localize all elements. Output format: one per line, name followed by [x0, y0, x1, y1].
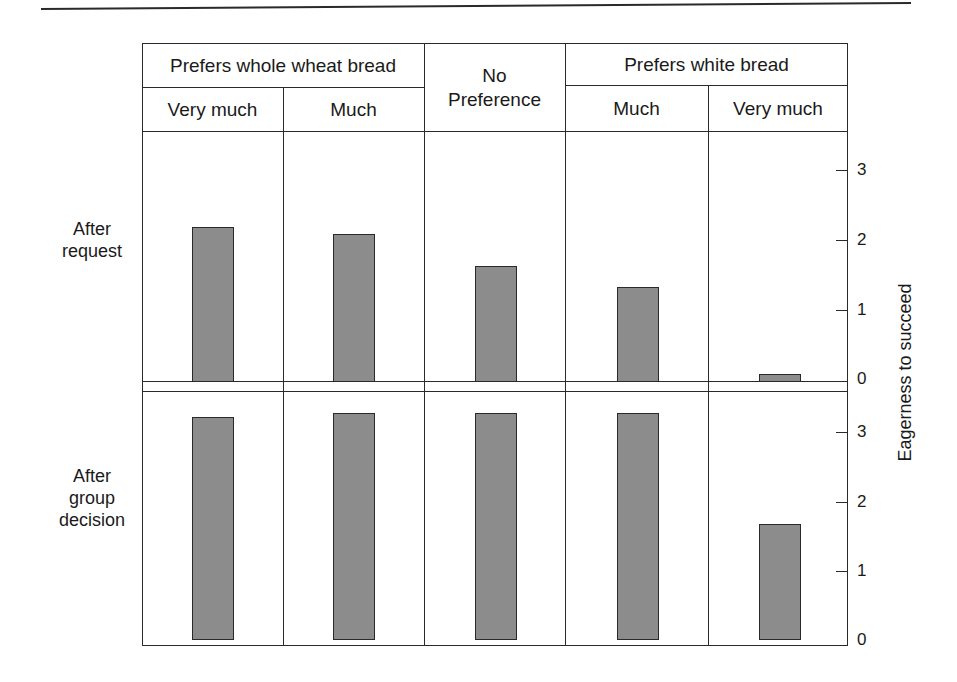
subheader-white-very-much: Very much: [708, 86, 848, 131]
tick-p1-3: [836, 170, 848, 171]
tick-label-p2-3: 3: [857, 422, 866, 442]
bar-after-group-decision-3: [617, 413, 659, 640]
group-header-whole-wheat: Prefers whole wheat bread: [142, 44, 424, 87]
tick-label-p1-2: 2: [857, 230, 866, 250]
row-label-line: After: [37, 218, 147, 240]
tick-label-p2-0: 0: [857, 630, 866, 650]
no-pref-line2: Preference: [448, 88, 541, 112]
bar-after-group-decision-4: [759, 524, 801, 640]
row-label-after-group-decision: After group decision: [37, 465, 147, 531]
bar-after-request-1: [333, 234, 375, 382]
tick-p2-2: [836, 502, 848, 503]
panel2-top: [142, 391, 848, 392]
bar-after-request-3: [617, 287, 659, 383]
tick-p1-1: [836, 310, 848, 311]
tick-p2-3: [836, 432, 848, 433]
subheader-text: Much: [613, 97, 659, 121]
col-divider-4: [708, 85, 709, 646]
subheader-text: Much: [330, 98, 376, 122]
tick-p2-1: [836, 571, 848, 572]
row-label-line: request: [37, 240, 147, 262]
tick-p1-2: [836, 240, 848, 241]
subheader-ww-very-much: Very much: [142, 88, 283, 131]
top-rule: [41, 2, 911, 10]
row-label-after-request: After request: [37, 218, 147, 262]
group-header-whole-wheat-text: Prefers whole wheat bread: [170, 54, 396, 78]
row-label-line: group: [37, 487, 147, 509]
row-label-line: After: [37, 465, 147, 487]
bar-after-group-decision-1: [333, 413, 375, 640]
subheader-ww-much: Much: [283, 88, 424, 131]
tick-label-p2-1: 1: [857, 561, 866, 581]
bar-after-request-0: [192, 227, 234, 382]
bar-after-group-decision-0: [192, 417, 234, 640]
tick-label-p1-3: 3: [857, 160, 866, 180]
col-divider-3: [565, 43, 566, 646]
group-header-white-text: Prefers white bread: [624, 53, 789, 77]
tick-label-p1-1: 1: [857, 300, 866, 320]
y-axis-label: Eagerness to succeed: [895, 283, 916, 463]
subheader-text: Very much: [733, 97, 823, 121]
subheader-text: Very much: [168, 98, 258, 122]
bar-after-request-2: [475, 266, 517, 383]
row-label-line: decision: [37, 509, 147, 531]
no-pref-line1: No: [482, 64, 506, 88]
bar-after-request-4: [759, 374, 801, 382]
tick-label-p2-2: 2: [857, 492, 866, 512]
col-divider-1: [283, 87, 284, 646]
tick-label-p1-0: 0: [857, 369, 866, 389]
col-divider-2: [424, 43, 425, 646]
subheader-white-much: Much: [565, 86, 708, 131]
bar-after-group-decision-2: [475, 413, 517, 640]
group-header-white: Prefers white bread: [565, 44, 848, 85]
header-bottom: [142, 131, 848, 132]
group-header-no-preference: No Preference: [424, 44, 565, 131]
